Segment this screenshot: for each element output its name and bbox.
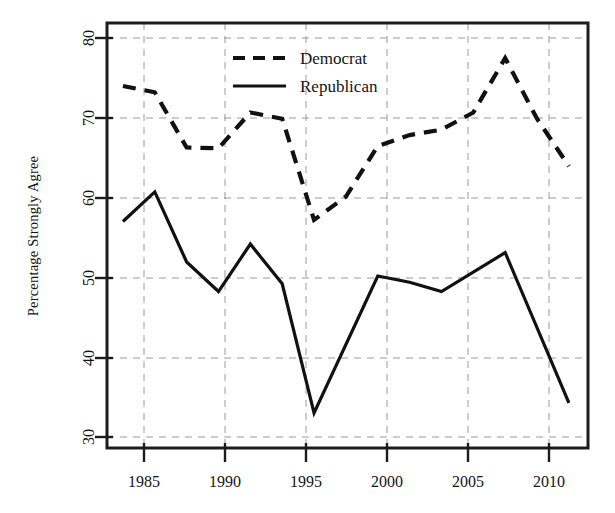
xtick-label-2000: 2000: [371, 473, 403, 490]
xtick-label-1995: 1995: [290, 473, 322, 490]
xtick-label-1990: 1990: [209, 473, 241, 490]
y-axis-title: Percentage Strongly Agree: [25, 156, 41, 316]
legend-label-republican: Republican: [300, 77, 378, 96]
xtick-label-2010: 2010: [533, 473, 565, 490]
xtick-label-1985: 1985: [128, 473, 160, 490]
line-chart: 80 70 60 50 40 30 1985 1990 1995 2000 20…: [0, 0, 615, 513]
y-tick-labels: 80 70 60 50 40 30: [80, 30, 97, 445]
ytick-label-50: 50: [80, 270, 97, 286]
ytick-label-40: 40: [80, 350, 97, 366]
legend-label-democrat: Democrat: [300, 49, 367, 68]
ytick-label-60: 60: [80, 190, 97, 206]
chart-figure: 80 70 60 50 40 30 1985 1990 1995 2000 20…: [0, 0, 615, 513]
ytick-label-80: 80: [80, 30, 97, 46]
x-tick-labels: 1985 1990 1995 2000 2005 2010: [128, 473, 565, 490]
ytick-label-70: 70: [80, 110, 97, 126]
ytick-label-30: 30: [80, 429, 97, 445]
xtick-label-2005: 2005: [452, 473, 484, 490]
